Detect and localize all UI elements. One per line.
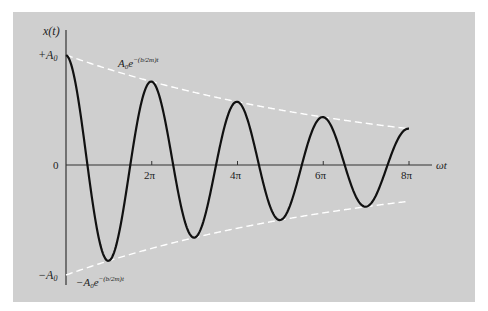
x-tick-label-4pi: 4π xyxy=(230,169,242,181)
y-axis-label: x(t) xyxy=(42,24,60,38)
chart-svg: x(t) ωt +A0 0 −A0 2π 4π 6π 8π A0e−(b/2m)… xyxy=(0,0,488,311)
x-tick-label-2pi: 2π xyxy=(144,169,156,181)
x-tick-label-8pi: 8π xyxy=(401,169,413,181)
y-tick-plus-a0: +A0 xyxy=(38,48,57,63)
y-tick-minus-a0: −A0 xyxy=(38,268,57,283)
lower-envelope-label: −A0e−(b/2m)t xyxy=(76,275,125,290)
upper-envelope-label: A0e−(b/2m)t xyxy=(117,56,160,71)
y-tick-zero: 0 xyxy=(53,159,59,171)
x-axis-label: ωt xyxy=(436,159,448,171)
x-tick-label-6pi: 6π xyxy=(315,169,327,181)
damped-oscillation-curve xyxy=(66,55,409,261)
